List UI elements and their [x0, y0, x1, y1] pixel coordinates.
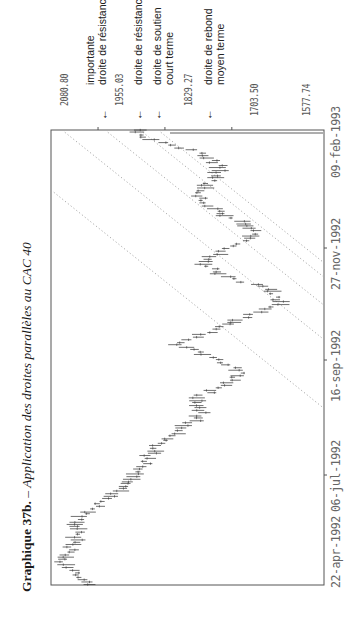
date-label-2: 06-jul-1992 — [329, 440, 343, 512]
annotation-line: moyen terme — [214, 9, 226, 85]
arrow-left-icon: ← — [202, 109, 214, 120]
arrow-left-icon: ← — [132, 109, 144, 120]
annotation-line: droite de résistance — [132, 0, 144, 85]
axis-ticks — [98, 127, 327, 475]
annotation-importante-resistance: importante droite de résistance — [84, 0, 108, 85]
arrow-left-icon: ← — [97, 109, 109, 120]
price-label-3: 1829.27 — [182, 74, 195, 106]
annotation-line: droite de soutien — [151, 7, 163, 85]
price-label-2: 1955.03 — [113, 74, 126, 106]
date-label-4: 27-nov-1992 — [329, 218, 343, 290]
price-label-5: 1577.74 — [300, 84, 313, 116]
annotation-soutien: droite de soutien court terme — [151, 7, 175, 85]
arrow-left-icon: ← — [151, 109, 163, 120]
chart-frame — [51, 130, 324, 585]
annotation-line: importante — [84, 0, 96, 85]
annotation-line: droite de résistance — [96, 0, 108, 85]
date-label-3: 16-sep-1992 — [329, 330, 343, 402]
date-label-1: 22-apr-1992 — [329, 516, 343, 588]
price-label-1: 2080.80 — [58, 74, 71, 106]
date-label-5: 09-feb-1993 — [329, 106, 343, 178]
price-bars — [54, 129, 289, 586]
trend-lines — [51, 130, 324, 408]
annotation-rebond: droite de rebond moyen terme — [202, 9, 226, 85]
annotation-line: court terme — [163, 7, 175, 85]
price-label-4: 1703.50 — [248, 84, 261, 116]
annotation-resistance: droite de résistance — [132, 0, 144, 85]
annotation-line: droite de rebond — [202, 9, 214, 85]
